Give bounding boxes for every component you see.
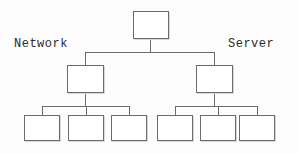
edge-branch-right-stem [214, 93, 215, 106]
node-branch-right[interactable] [196, 65, 233, 93]
edge-root-stem [150, 39, 151, 52]
edge-to-branch-left [85, 52, 86, 65]
node-leaf-3[interactable] [111, 115, 147, 141]
node-leaf-4[interactable] [157, 115, 193, 141]
node-leaf-2[interactable] [68, 115, 104, 141]
edge-to-leaf-3 [129, 106, 130, 115]
edge-branch-left-stem [85, 93, 86, 106]
label-server: Server [228, 38, 274, 51]
tree-diagram-canvas: Network Server [0, 0, 299, 153]
edge-to-leaf-5 [218, 106, 219, 115]
node-leaf-5[interactable] [200, 115, 236, 141]
edge-to-leaf-4 [175, 106, 176, 115]
node-leaf-6[interactable] [239, 115, 275, 141]
node-root[interactable] [133, 11, 169, 39]
edge-to-leaf-2 [86, 106, 87, 115]
label-network: Network [14, 38, 68, 51]
edge-to-branch-right [214, 52, 215, 65]
edge-to-leaf-6 [257, 106, 258, 115]
node-branch-left[interactable] [67, 65, 104, 93]
edge-root-bus [85, 52, 215, 53]
edge-branch-right-bus [175, 106, 257, 107]
edge-to-leaf-1 [42, 106, 43, 115]
node-leaf-1[interactable] [24, 115, 60, 141]
